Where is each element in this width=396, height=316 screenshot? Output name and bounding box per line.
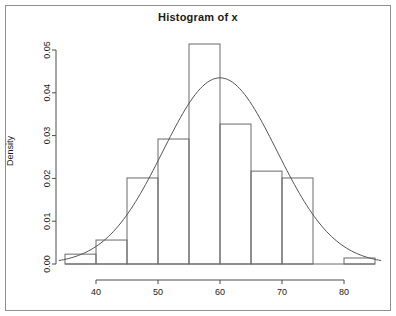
x-axis-tick-label: 60 [215,287,225,297]
y-axis-tick-label: 0.00 [42,255,52,273]
histogram-figure: Histogram of x Density 0.000.010.020.030… [0,0,396,316]
histogram-bar [344,258,375,264]
histogram-bar [189,44,220,264]
y-axis-tick-label: 0.02 [42,170,52,188]
histogram-bar [220,124,251,264]
x-axis: 4050607080 [91,280,349,297]
y-axis: 0.000.010.020.030.040.05 [42,41,56,273]
histogram-bars [65,44,375,264]
plot-area: 0.000.010.020.030.040.05 4050607080 [0,0,396,316]
y-axis-tick-label: 0.05 [42,41,52,59]
y-axis-tick-label: 0.04 [42,84,52,102]
histogram-bar [65,254,96,264]
y-axis-tick-label: 0.03 [42,127,52,145]
histogram-bar [158,139,189,264]
x-axis-tick-label: 40 [91,287,101,297]
x-axis-tick-label: 70 [277,287,287,297]
histogram-bar [251,171,282,264]
y-axis-tick-label: 0.01 [42,212,52,230]
x-axis-tick-label: 80 [339,287,349,297]
x-axis-tick-label: 50 [153,287,163,297]
